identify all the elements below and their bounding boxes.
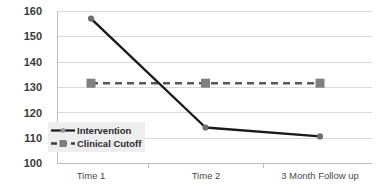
x-axis-ticks (148, 164, 263, 169)
x-axis-label-time-2: Time 2 (176, 170, 236, 181)
legend-label-clinical-cutoff: Clinical Cutoff (77, 138, 141, 149)
series-intervention (88, 16, 323, 140)
intervention-marker-time-1 (88, 16, 94, 22)
legend-swatch-clinical-cutoff-icon (50, 138, 76, 149)
x-axis-label-follow-up: 3 Month Follow up (267, 170, 373, 181)
series-clinical-cutoff (87, 79, 325, 88)
plot-area (0, 0, 376, 187)
legend-label-intervention: Intervention (77, 125, 131, 136)
intervention-line (91, 19, 320, 137)
legend-swatch-intervention-icon (50, 125, 76, 136)
cutoff-marker-follow-up (316, 79, 325, 88)
legend-item-clinical-cutoff: Clinical Cutoff (50, 137, 141, 150)
intervention-marker-follow-up (317, 133, 323, 139)
line-chart: 160 150 140 130 120 110 100 (0, 0, 376, 187)
legend-item-intervention: Intervention (50, 124, 141, 137)
x-axis-label-time-1: Time 1 (61, 170, 121, 181)
intervention-marker-time-2 (202, 124, 208, 130)
chart-legend: Intervention Clinical Cutoff (48, 122, 145, 152)
cutoff-marker-time-1 (87, 79, 96, 88)
cutoff-marker-time-2 (201, 79, 210, 88)
